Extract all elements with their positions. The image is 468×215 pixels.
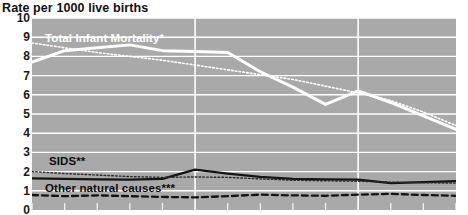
y-axis-tick-label: 7: [2, 70, 30, 82]
series-line: [32, 43, 456, 126]
y-axis-tick-label: 5: [2, 108, 30, 120]
series-label-other-natural-causes: Other natural causes***: [45, 182, 175, 194]
y-axis-tick-label: 0: [2, 204, 30, 215]
y-axis-tick-labels: 012345678910: [0, 18, 30, 210]
y-axis-tick-label: 9: [2, 31, 30, 43]
y-axis-tick-label: 3: [2, 146, 30, 158]
y-axis-tick-label: 1: [2, 185, 30, 197]
series-label-total-infant-mortality: Total Infant Mortality*: [45, 32, 164, 44]
y-axis-tick-label: 4: [2, 127, 30, 139]
y-axis-tick-label: 6: [2, 89, 30, 101]
y-axis-tick-label: 2: [2, 166, 30, 178]
series-line: [32, 194, 456, 197]
series-label-sids: SIDS**: [49, 155, 85, 167]
y-axis-tick-label: 8: [2, 50, 30, 62]
series-line: [32, 45, 456, 129]
chart-container: Rate per 1000 live births 012345678910 T…: [0, 0, 468, 215]
y-axis-tick-label: 10: [2, 12, 30, 24]
